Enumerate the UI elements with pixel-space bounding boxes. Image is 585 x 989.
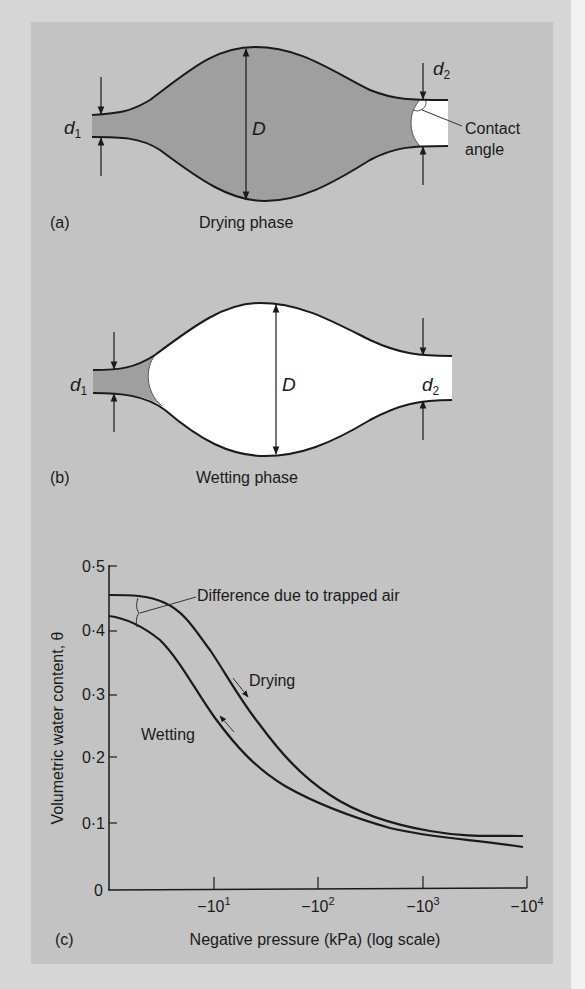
panel-a-d1-label: d1	[64, 117, 82, 141]
x-axis-label: Negative pressure (kPa) (log scale)	[190, 931, 441, 948]
y-axis-label: Volumetric water content, θ	[49, 631, 66, 824]
drying-curve	[109, 595, 523, 836]
x-tick-label: −104	[510, 895, 543, 915]
panel-b-d1-label: d1	[70, 374, 88, 398]
y-tick-label: 0·3	[82, 686, 105, 703]
figure: d1 D d2 Contact angle (a) Drying phase d…	[0, 0, 585, 989]
wetting-series-label: Wetting	[141, 726, 195, 743]
wetting-direction-arrow	[220, 716, 234, 732]
y-tick-label: 0·2	[82, 749, 105, 766]
y-tick-label: 0·4	[82, 622, 105, 639]
pore-air-fill	[411, 100, 448, 146]
panel-b-D-label: D	[282, 374, 296, 395]
panel-a-D-label: D	[252, 118, 266, 139]
panel-c-label: (c)	[55, 931, 74, 948]
y-tick-label: 0·5	[82, 558, 105, 575]
trapped-air-annotation: Difference due to trapped air	[197, 587, 400, 604]
y-tick-label: 0·1	[82, 815, 105, 832]
panel-b-label: (b)	[50, 469, 70, 486]
x-tick-label: −102	[301, 895, 334, 915]
panel-a-annotation-contact: Contact	[465, 120, 521, 137]
panel-a-annotation-angle: angle	[465, 141, 504, 158]
trapped-air-brace	[136, 598, 139, 627]
panel-a-caption: Drying phase	[199, 214, 293, 231]
trapped-air-leader	[140, 597, 196, 613]
x-tick-label: −103	[406, 895, 439, 915]
drying-direction-arrow	[233, 678, 248, 697]
panel-b-wetting-pore	[93, 303, 452, 456]
x-tick-label: −101	[197, 895, 230, 915]
panel-a-d2-label: d2	[433, 58, 451, 82]
drying-series-label: Drying	[249, 672, 295, 689]
panel-b-caption: Wetting phase	[196, 469, 298, 486]
y-tick-label: 0	[94, 882, 103, 899]
panel-a-drying-pore	[92, 47, 462, 201]
panel-a-label: (a)	[50, 214, 70, 231]
